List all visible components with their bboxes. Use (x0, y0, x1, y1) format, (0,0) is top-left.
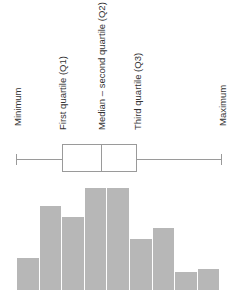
histogram-bar (198, 269, 220, 290)
histogram-bar (62, 217, 84, 290)
histogram-bar (107, 188, 129, 290)
histogram-bar (85, 188, 107, 290)
histogram-bar (153, 228, 175, 290)
histogram (0, 0, 238, 307)
histogram-bar (17, 258, 39, 290)
histogram-bar (130, 239, 152, 290)
histogram-bar (175, 272, 197, 290)
histogram-bar (40, 206, 62, 290)
